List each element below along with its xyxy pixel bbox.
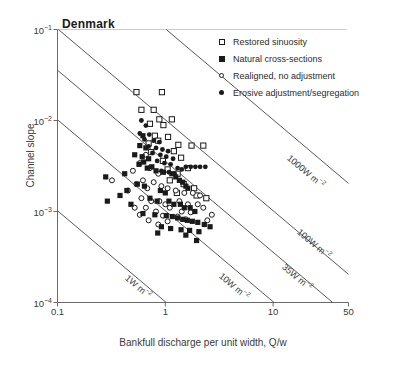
open-circle-icon bbox=[219, 73, 224, 78]
legend-item[interactable]: Erosive adjustment/segregation bbox=[219, 84, 359, 101]
filled-circle-icon bbox=[219, 90, 224, 95]
y-tick-label: 10−3 bbox=[33, 206, 52, 218]
legend-marker-icon bbox=[219, 90, 233, 95]
legend-label: Natural cross-sections bbox=[233, 54, 322, 64]
filled-square-icon bbox=[219, 56, 225, 62]
chart-figure: Denmark Channel slope Bankfull discharge… bbox=[0, 0, 401, 367]
legend-marker-icon bbox=[219, 73, 233, 78]
legend-item[interactable]: Restored sinuosity bbox=[219, 33, 359, 50]
x-tick-label: 1 bbox=[150, 306, 180, 317]
y-axis-label: Channel slope bbox=[25, 96, 36, 216]
y-tick-label: 10−2 bbox=[33, 115, 52, 127]
x-tick-label: 10 bbox=[258, 306, 288, 317]
chart-legend: Restored sinuosityNatural cross-sections… bbox=[219, 33, 359, 101]
x-tick-label: 50 bbox=[334, 306, 364, 317]
chart-title: Denmark bbox=[62, 17, 115, 31]
legend-item[interactable]: Natural cross-sections bbox=[219, 50, 359, 67]
legend-label: Restored sinuosity bbox=[233, 37, 307, 47]
legend-marker-icon bbox=[219, 56, 233, 62]
legend-item[interactable]: Realigned, no adjustment bbox=[219, 67, 359, 84]
legend-marker-icon bbox=[219, 39, 233, 45]
open-square-icon bbox=[219, 39, 225, 45]
legend-label: Erosive adjustment/segregation bbox=[233, 88, 359, 98]
x-tick-label: 0.1 bbox=[43, 306, 73, 317]
y-tick-label: 10−1 bbox=[33, 24, 52, 36]
x-axis-label: Bankfull discharge per unit width, Q/w bbox=[57, 337, 349, 348]
legend-label: Realigned, no adjustment bbox=[233, 71, 335, 81]
